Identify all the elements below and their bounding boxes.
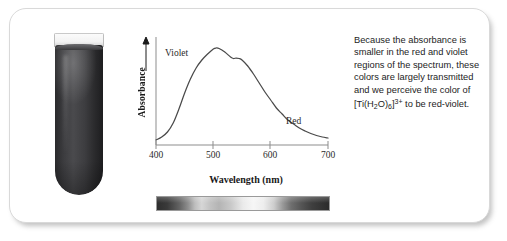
test-tube-highlight [63,55,68,155]
y-axis-arrow [143,37,149,71]
caption-line-6-tail: to be red-violet. [403,99,470,109]
red-region-label: Red [286,116,301,126]
caption-line-6: [Ti(H2O)6]3+ to be red-violet. [354,96,504,113]
figure-card: Absorbance [9,8,490,223]
spectrum-bar-gloss [157,197,329,203]
caption-text: Because the absorbance is smaller in the… [354,34,504,113]
y-axis-label: Absorbance [137,67,153,118]
absorbance-spectrum-chart: Absorbance [138,31,338,201]
caption-line-2: smaller in the red and violet [354,46,504,58]
test-tube-bottom-shade [55,161,103,195]
visible-spectrum-bar [156,196,330,211]
x-tick-500: 500 [200,150,226,160]
x-tick-600: 600 [257,150,283,160]
violet-region-label: Violet [165,48,188,58]
formula-open: [Ti(H [354,99,374,109]
test-tube-image [54,33,104,195]
caption-line-5: and we perceive the color of [354,84,504,96]
caption-line-4: colors are largely transmitted [354,71,504,83]
formula-charge: 3+ [395,98,403,105]
x-axis-label: Wavelength (nm) [154,174,338,185]
absorbance-curve [156,48,328,140]
caption-line-1: Because the absorbance is [354,34,504,46]
formula-mid: O) [378,99,388,109]
test-tube-glass [54,33,104,195]
caption-line-3: regions of the spectrum, these [354,59,504,71]
x-tick-700: 700 [315,150,341,160]
x-tick-400: 400 [143,150,169,160]
figure-root: Absorbance [0,0,507,241]
test-tube-meniscus [55,44,103,50]
